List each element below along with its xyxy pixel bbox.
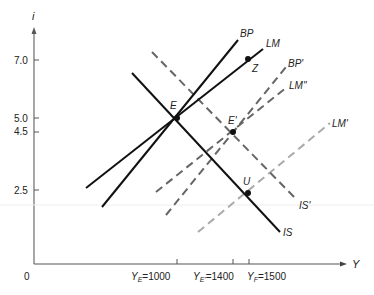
point-e-label: E — [170, 100, 177, 111]
y-tick-label-7: 7.0 — [14, 55, 28, 66]
point-e-prime — [230, 129, 236, 135]
is-lm-bp-diagram: i Y 0 7.0 5.0 4.5 2.5 YE=1000 YE'=1400 Y… — [0, 0, 374, 295]
is-prime-label: IS' — [299, 200, 311, 211]
x-tick-label-1500: YF=1500 — [247, 271, 286, 283]
point-z — [245, 56, 251, 62]
lm-prime-label: LM' — [332, 118, 349, 129]
y-axis-label: i — [32, 10, 35, 22]
bp-prime-curve — [166, 67, 286, 215]
lm-label: LM — [266, 38, 281, 49]
axes: i Y 0 7.0 5.0 4.5 2.5 YE=1000 YE'=1400 Y… — [14, 10, 360, 283]
is-label: IS — [283, 227, 293, 238]
point-e-prime-label: E' — [228, 115, 238, 126]
x-tick-label-1000: YE=1000 — [131, 271, 171, 283]
y-tick-label-5: 5.0 — [14, 113, 28, 124]
y-axis-arrow-icon — [32, 27, 37, 34]
is-prime-curve — [152, 52, 296, 199]
x-axis-arrow-icon — [340, 262, 347, 267]
x-axis-label: Y — [352, 258, 360, 270]
points: E E' U Z — [170, 56, 259, 196]
x-tick-label-1400: YE'=1400 — [193, 271, 234, 283]
y-tick-label-2-5: 2.5 — [14, 185, 28, 196]
point-u-label: U — [243, 176, 251, 187]
origin-label: 0 — [24, 271, 30, 282]
bp-prime-label: BP' — [288, 58, 304, 69]
is-curve — [132, 73, 280, 232]
point-e — [174, 115, 180, 121]
bp-label: BP — [240, 28, 254, 39]
lm-double-prime-label: LM'' — [289, 80, 308, 91]
y-tick-label-4-5: 4.5 — [14, 126, 28, 137]
point-u — [245, 190, 251, 196]
point-z-label: Z — [251, 63, 259, 74]
